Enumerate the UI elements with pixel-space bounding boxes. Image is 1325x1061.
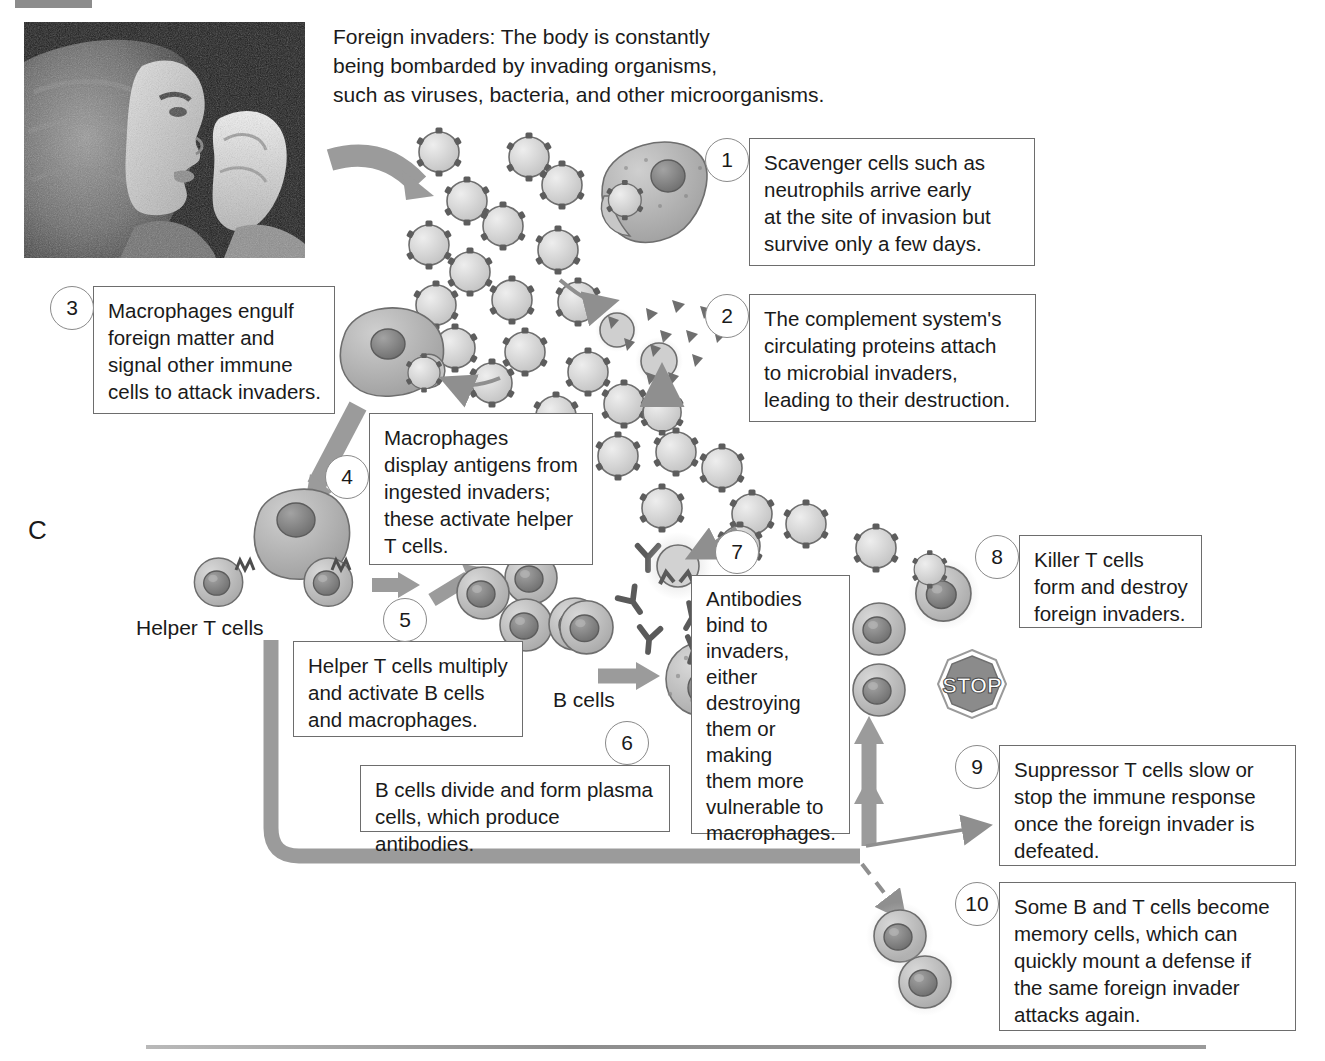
callout-step-5: Helper T cells multiply and activate B c… [293,641,523,737]
callout-step-9: Suppressor T cells slow or stop the immu… [999,745,1296,866]
callout-step-8: Killer T cells form and destroy foreign … [1019,535,1202,628]
activated-b-cell [560,601,613,654]
memory-cells [866,902,959,1016]
step-badge-4: 4 [325,455,369,499]
bottom-rule [146,1045,1206,1049]
step-badge-7: 7 [715,530,759,574]
callout-step-3: Macrophages engulf foreign matter and si… [93,286,335,414]
step-badge-9: 9 [955,745,999,789]
step-badge-6: 6 [605,721,649,765]
neutrophil-cell [602,142,707,242]
stop-sign: STOP [938,650,1006,718]
callout-step-6: B cells divide and form plasma cells, wh… [360,765,670,832]
helper-t-cell-right [304,558,352,606]
callout-step-1: Scavenger cells such as neutrophils arri… [749,138,1035,266]
stop-sign-text: STOP [942,673,1002,698]
step-badge-3: 3 [50,286,94,330]
step-badge-2: 2 [705,294,749,338]
figure-canvas: Foreign invaders: The body is constantly… [0,0,1325,1061]
helper-t-cells-label: Helper T cells [136,616,264,640]
step-badge-1: 1 [705,138,749,182]
callout-step-4: Macrophages display antigens from ingest… [369,413,593,565]
callout-step-7: Antibodies bind to invaders, either dest… [691,575,850,834]
callout-step-10: Some B and T cells become memory cells, … [999,882,1296,1031]
b-cells-label: B cells [553,688,615,712]
callout-step-2: The complement system's circulating prot… [749,294,1036,422]
step-badge-10: 10 [955,882,999,926]
helper-t-cell-left [194,558,254,606]
macrophage-cell [340,308,444,396]
step-badge-8: 8 [975,535,1019,579]
step-badge-5: 5 [383,598,427,642]
suppressor-arrow [866,826,986,846]
